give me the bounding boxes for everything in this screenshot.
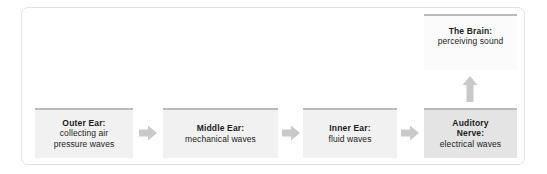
stage-title-line1-auditory-nerve: Auditory: [452, 118, 488, 128]
stage-desc-line1-middle-ear: mechanical waves: [185, 134, 256, 144]
stage-title-middle-ear: Middle Ear:: [197, 123, 245, 133]
stage-desc-brain: perceiving sound: [438, 36, 504, 46]
stage-desc-auditory-nerve: electrical waves: [440, 139, 501, 149]
stage-desc-line1-auditory-nerve: electrical waves: [440, 139, 501, 149]
stage-title-line2-auditory-nerve: Nerve:: [452, 128, 488, 138]
hearing-pathway-diagram: Outer Ear: collecting air pressure waves…: [0, 0, 547, 174]
stage-desc-line1-outer-ear: collecting air: [60, 128, 108, 138]
arrow-right-icon: [139, 125, 157, 141]
stage-desc-outer-ear: collecting air pressure waves: [54, 128, 115, 149]
stage-desc-line2-outer-ear: pressure waves: [54, 139, 115, 149]
stage-box-auditory-nerve: Auditory Nerve: electrical waves: [424, 108, 517, 158]
arrow-up-icon: [462, 76, 478, 102]
stage-box-outer-ear: Outer Ear: collecting air pressure waves: [35, 108, 133, 158]
stage-box-brain: The Brain: perceiving sound: [424, 14, 517, 70]
stage-desc-line1-brain: perceiving sound: [438, 36, 504, 46]
stage-box-inner-ear: Inner Ear: fluid waves: [303, 108, 397, 158]
stage-title-outer-ear: Outer Ear:: [62, 118, 105, 128]
stage-desc-middle-ear: mechanical waves: [185, 134, 256, 144]
stage-box-middle-ear: Middle Ear: mechanical waves: [163, 108, 278, 158]
stage-title-auditory-nerve: Auditory Nerve:: [452, 118, 488, 139]
arrow-right-icon: [401, 125, 419, 141]
stage-desc-inner-ear: fluid waves: [329, 134, 372, 144]
stage-title-brain: The Brain:: [449, 26, 493, 36]
arrow-right-icon: [282, 125, 300, 141]
stage-desc-line1-inner-ear: fluid waves: [329, 134, 372, 144]
stage-title-inner-ear: Inner Ear:: [329, 123, 370, 133]
